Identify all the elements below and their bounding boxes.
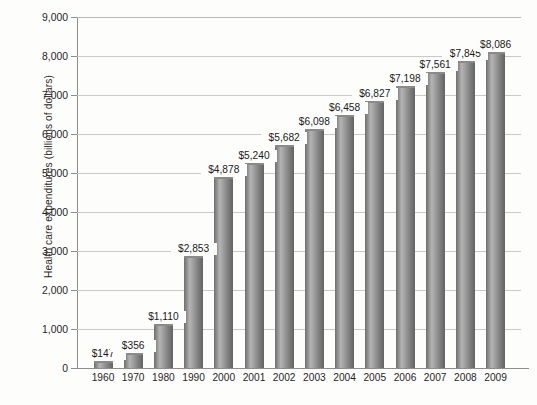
x-axis-line	[77, 368, 529, 369]
bar	[245, 163, 264, 368]
bar-value-label: $2,853	[171, 243, 217, 255]
bar-top-cap	[124, 353, 143, 355]
bar-top-cap	[184, 256, 203, 258]
y-tick-label: 5,000	[0, 168, 68, 179]
y-tick-label: 7,000	[0, 90, 68, 101]
bar	[365, 101, 384, 368]
bar	[154, 324, 173, 368]
bar-top-cap	[486, 52, 505, 54]
bar-value-label: $1,110	[140, 311, 186, 323]
bar-top-cap	[154, 324, 173, 326]
y-tick-label: 0	[0, 363, 68, 374]
y-tick-label: 2,000	[0, 285, 68, 296]
bar	[486, 52, 505, 368]
bar-top-cap	[426, 72, 445, 74]
bar	[456, 61, 475, 368]
bar	[305, 129, 324, 368]
y-tick-mark	[71, 368, 77, 369]
bar-top-cap	[365, 101, 384, 103]
bar	[124, 353, 143, 368]
bar-value-label: $7,198	[382, 73, 428, 85]
bar-top-cap	[94, 361, 113, 363]
y-tick-label: 9,000	[0, 12, 68, 23]
bar-value-label: $5,240	[231, 150, 277, 162]
y-tick-label: 8,000	[0, 51, 68, 62]
bar-chart: Health care expenditures (billions of do…	[0, 0, 537, 405]
bar-top-cap	[396, 86, 415, 88]
bar-top-cap	[214, 177, 233, 179]
bar-value-label: $6,098	[291, 116, 337, 128]
bar	[396, 86, 415, 368]
bar-top-cap	[335, 115, 354, 117]
bar-top-cap	[456, 61, 475, 63]
bar	[275, 145, 294, 368]
bar-value-label: $6,458	[322, 102, 368, 114]
bar-value-label: $356	[110, 340, 156, 352]
y-tick-label: 4,000	[0, 207, 68, 218]
y-tick-label: 1,000	[0, 324, 68, 335]
bar	[335, 115, 354, 368]
bar-value-label: $8,086	[473, 39, 519, 51]
bar	[184, 256, 203, 368]
bar	[214, 177, 233, 368]
bar	[94, 361, 113, 368]
y-tick-label: 6,000	[0, 129, 68, 140]
x-tick-label: 2009	[476, 372, 516, 383]
bar	[426, 72, 445, 368]
bar-top-cap	[305, 129, 324, 131]
bar-value-label: $4,878	[201, 164, 247, 176]
bar-top-cap	[275, 145, 294, 147]
bar-top-cap	[245, 163, 264, 165]
bar-value-label: $6,827	[352, 88, 398, 100]
bar-value-label: $5,682	[261, 132, 307, 144]
y-tick-label: 3,000	[0, 246, 68, 257]
bar-value-label: $7,561	[412, 59, 458, 71]
